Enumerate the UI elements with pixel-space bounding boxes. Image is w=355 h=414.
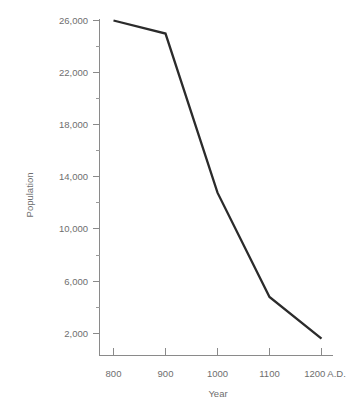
x-tick-label-1100: 1100	[259, 368, 279, 379]
x-tick-label-1000: 1000	[207, 368, 228, 379]
y-tick-label-18000: 18,000	[59, 119, 88, 130]
population-series-line	[114, 21, 322, 339]
population-decline-line-chart: 26,000 22,000 18,000 14,000 10,000 6,000…	[0, 0, 355, 414]
y-tick-label-10000: 10,000	[59, 223, 88, 234]
y-tick-label-22000: 22,000	[59, 67, 88, 78]
y-tick-label-2000: 2,000	[64, 328, 88, 339]
x-tick-label-1200: 1200 A.D.	[304, 368, 346, 379]
y-tick-label-14000: 14,000	[59, 171, 88, 182]
y-axis-title: Population	[24, 173, 35, 218]
x-axis-tick-labels: 800 900 1000 1100 1200 A.D.	[106, 368, 346, 379]
y-axis-major-ticks	[93, 21, 100, 334]
x-axis-ticks	[114, 348, 322, 356]
x-tick-label-900: 900	[158, 368, 174, 379]
y-tick-label-26000: 26,000	[59, 15, 88, 26]
x-tick-label-800: 800	[106, 368, 122, 379]
x-axis-title: Year	[208, 388, 227, 399]
y-axis-tick-labels: 26,000 22,000 18,000 14,000 10,000 6,000…	[59, 15, 88, 339]
y-tick-label-6000: 6,000	[64, 276, 88, 287]
chart-canvas: 26,000 22,000 18,000 14,000 10,000 6,000…	[0, 0, 355, 414]
